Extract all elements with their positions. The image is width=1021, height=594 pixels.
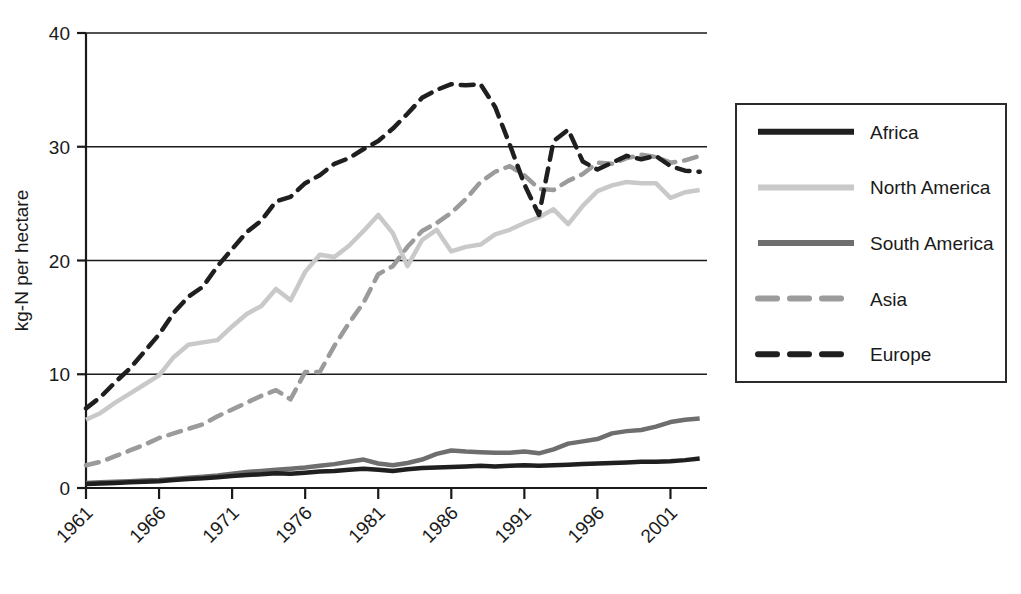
y-axis: 010203040 — [49, 23, 86, 499]
legend: AfricaNorth AmericaSouth AmericaAsiaEuro… — [736, 104, 1006, 382]
x-tick-label: 1971 — [198, 502, 243, 547]
x-tick-label: 1961 — [52, 502, 97, 547]
y-tick-label: 30 — [49, 137, 70, 158]
legend-label-south-america: South America — [870, 233, 994, 254]
y-tick-label: 20 — [49, 251, 70, 272]
legend-label-europe: Europe — [870, 344, 931, 365]
series-line-south-america — [86, 419, 700, 483]
legend-label-asia: Asia — [870, 289, 907, 310]
series-line-africa — [86, 458, 700, 484]
line-chart: 010203040kg-N per hectare196119661971197… — [0, 0, 1021, 594]
x-tick-label: 1976 — [271, 502, 316, 547]
x-tick-label: 2001 — [637, 502, 682, 547]
y-tick-label: 10 — [49, 364, 70, 385]
y-tick-label: 40 — [49, 23, 70, 44]
x-tick-label: 1966 — [125, 502, 170, 547]
data-series-group — [86, 84, 700, 484]
chart-figure: 010203040kg-N per hectare196119661971197… — [0, 0, 1021, 594]
series-line-europe — [86, 84, 700, 408]
x-tick-label: 1991 — [490, 502, 535, 547]
legend-label-north-america: North America — [870, 177, 991, 198]
y-tick-label: 0 — [59, 478, 70, 499]
series-line-north-america — [86, 182, 700, 420]
x-tick-label: 1981 — [344, 502, 389, 547]
y-axis-title: kg-N per hectare — [11, 190, 32, 332]
legend-label-africa: Africa — [870, 122, 919, 143]
x-tick-label: 1996 — [563, 502, 608, 547]
x-axis: 196119661971197619811986199119962001 — [52, 488, 707, 547]
x-tick-label: 1986 — [417, 502, 462, 547]
